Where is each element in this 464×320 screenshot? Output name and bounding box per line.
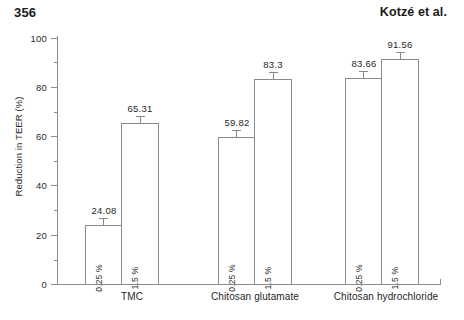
error-bar-cap-cg-025 [232, 130, 241, 131]
bar-concentration-label: 1.5 % [390, 267, 400, 290]
bar-value-chitosan-glutamate-15: 83.3 [248, 59, 298, 70]
y-tick-label-0: 0 [13, 279, 47, 290]
error-bar-stem-ch-025 [363, 71, 364, 79]
error-bar-cap-ch-15 [396, 52, 405, 53]
x-axis-endcap [440, 279, 441, 285]
y-tick-label-20: 20 [13, 230, 47, 241]
bar-chitosan-glutamate-15: 1.5 % [254, 79, 292, 285]
error-bar-stem-ch-15 [400, 52, 401, 60]
y-tick-minor-90 [54, 62, 58, 63]
y-tick-label-60: 60 [13, 131, 47, 142]
y-tick-label-100: 100 [13, 33, 47, 44]
y-tick-label-80: 80 [13, 82, 47, 93]
y-tick-minor-10 [54, 260, 58, 261]
category-label-chitosan-hydrochloride: Chitosan hydrochloride [327, 291, 445, 302]
y-tick-minor-70 [54, 112, 58, 113]
bar-chitosan-hydrochloride-025: 0.25 % [345, 78, 382, 285]
category-label-chitosan-glutamate: Chitosan glutamate [200, 291, 310, 302]
y-tick-60 [51, 136, 58, 137]
error-bar-stem-cg-15 [273, 72, 274, 80]
bar-chart-figure: Reduction in TEER (%) 0 20 40 60 80 100 … [0, 0, 464, 320]
bar-tmc-025: 0.25 % [85, 225, 122, 285]
y-tick-minor-50 [54, 161, 58, 162]
error-bar-stem-cg-025 [236, 130, 237, 138]
y-tick-80 [51, 87, 58, 88]
bar-value-chitosan-hydrochloride-15: 91.56 [375, 39, 425, 50]
bar-concentration-label: 0.25 % [354, 264, 364, 292]
error-bar-stem-tmc-025 [103, 218, 104, 226]
error-bar-cap-tmc-15 [136, 116, 145, 117]
bar-tmc-15: 1.5 % [121, 123, 159, 285]
category-label-tmc: TMC [77, 291, 187, 302]
bar-concentration-label: 0.25 % [227, 264, 237, 292]
error-bar-cap-ch-025 [359, 71, 368, 72]
y-tick-100 [51, 38, 58, 39]
bar-concentration-label: 1.5 % [263, 267, 273, 290]
error-bar-stem-tmc-15 [140, 116, 141, 124]
y-tick-0 [51, 284, 58, 285]
error-bar-cap-cg-15 [269, 72, 278, 73]
bar-concentration-label: 1.5 % [130, 267, 140, 290]
bar-chitosan-glutamate-025: 0.25 % [218, 137, 255, 285]
bar-value-tmc-15: 65.31 [115, 103, 165, 114]
y-tick-40 [51, 185, 58, 186]
y-tick-label-40: 40 [13, 180, 47, 191]
y-tick-minor-30 [54, 210, 58, 211]
error-bar-cap-tmc-025 [99, 218, 108, 219]
bar-concentration-label: 0.25 % [94, 264, 104, 292]
bar-chitosan-hydrochloride-15: 1.5 % [381, 59, 419, 285]
y-tick-20 [51, 235, 58, 236]
